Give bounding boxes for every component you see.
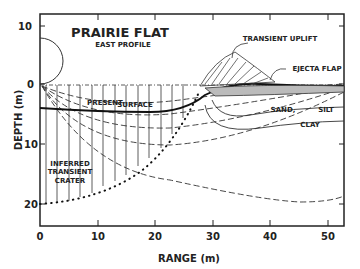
label-inferred: INFERRED (50, 160, 90, 168)
label-transient-uplift: TRANSIENT UPLIFT (243, 35, 318, 43)
label-transient: TRANSIENT (48, 168, 93, 176)
label-surface: SURFACE (117, 101, 153, 109)
x-axis-label: RANGE (m) (158, 253, 220, 264)
xtick-40: 40 (263, 231, 277, 242)
plot-frame (40, 14, 344, 226)
prairie-flat-diagram: 10 0 10 20 0 10 20 30 40 50 RANGE (m) DE… (0, 0, 360, 269)
xtick-30: 30 (206, 231, 220, 242)
y-axis-label: DEPTH (m) (13, 90, 24, 151)
ejecta-pointer (270, 69, 286, 80)
chart-title: PRAIRIE FLAT (71, 25, 169, 40)
ejecta-flap-band (205, 85, 344, 96)
transient-uplift-outline (200, 52, 275, 86)
ytick-10: 10 (24, 139, 38, 150)
xtick-10: 10 (91, 231, 105, 242)
ytick-20: 20 (24, 199, 38, 210)
xtick-50: 50 (321, 231, 335, 242)
label-silt: SILT (318, 106, 334, 114)
label-sand: SAND, (271, 106, 296, 114)
label-ejecta-flap: EJECTA FLAP (292, 65, 341, 73)
xtick-0: 0 (37, 231, 44, 242)
label-crater: CRATER (55, 177, 86, 185)
ytick-10-up: 10 (18, 21, 32, 32)
label-clay: CLAY (300, 121, 320, 129)
y-ticks (40, 26, 344, 204)
scale-semicircle (40, 38, 63, 84)
ytick-0: 0 (27, 79, 34, 90)
uplift-hatching (205, 58, 268, 84)
chart-subtitle: EAST PROFILE (95, 41, 151, 49)
xtick-20: 20 (148, 231, 162, 242)
